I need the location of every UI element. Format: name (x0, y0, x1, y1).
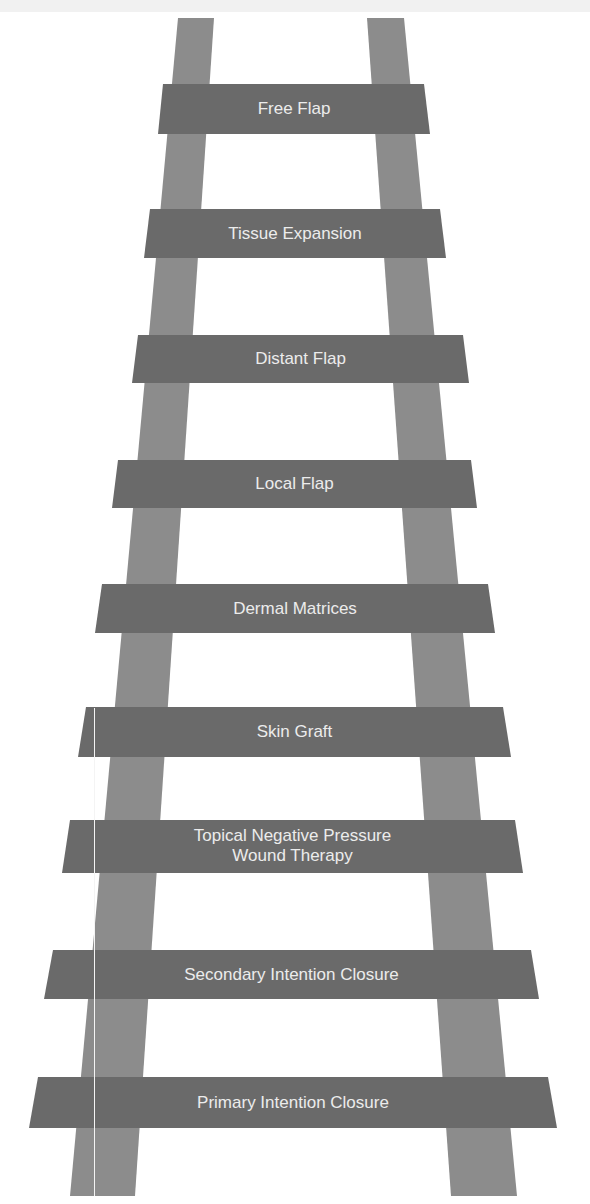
label-line-2: Wound Therapy (62, 846, 523, 866)
rung-label-secondary-intention: Secondary Intention Closure (44, 965, 539, 985)
rung-label-tissue-expansion: Tissue Expansion (144, 224, 446, 244)
rung-label-distant-flap: Distant Flap (132, 349, 469, 369)
rung-label-dermal-matrices: Dermal Matrices (95, 599, 495, 619)
label-text: Free Flap (258, 99, 331, 118)
image-seam-line (94, 708, 95, 1196)
label-text: Secondary Intention Closure (184, 965, 399, 984)
rung-label-free-flap: Free Flap (158, 99, 430, 119)
label-text: Dermal Matrices (233, 599, 357, 618)
label-text: Primary Intention Closure (197, 1093, 389, 1112)
rung-label-topical-negative-pressure: Topical Negative Pressure Wound Therapy (62, 826, 523, 866)
label-text: Tissue Expansion (228, 224, 362, 243)
rung-label-skin-graft: Skin Graft (78, 722, 511, 742)
rung-label-local-flap: Local Flap (112, 474, 477, 494)
label-line-1: Topical Negative Pressure (62, 826, 523, 846)
label-text: Local Flap (255, 474, 333, 493)
label-text: Skin Graft (257, 722, 333, 741)
rung-label-primary-intention: Primary Intention Closure (29, 1093, 557, 1113)
label-text: Distant Flap (255, 349, 346, 368)
